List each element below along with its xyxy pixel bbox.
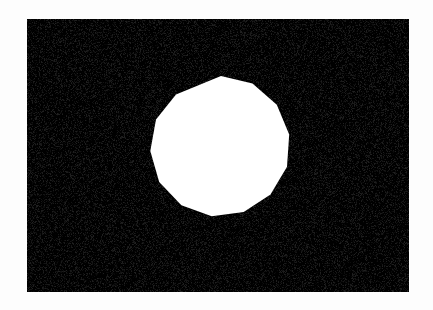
polygon-shape-layer: [27, 19, 327, 169]
black-field-rectangle: [27, 19, 409, 292]
image-canvas: White regular polygon on black field: [0, 0, 433, 310]
regular-polygon-shape: [150, 76, 289, 216]
